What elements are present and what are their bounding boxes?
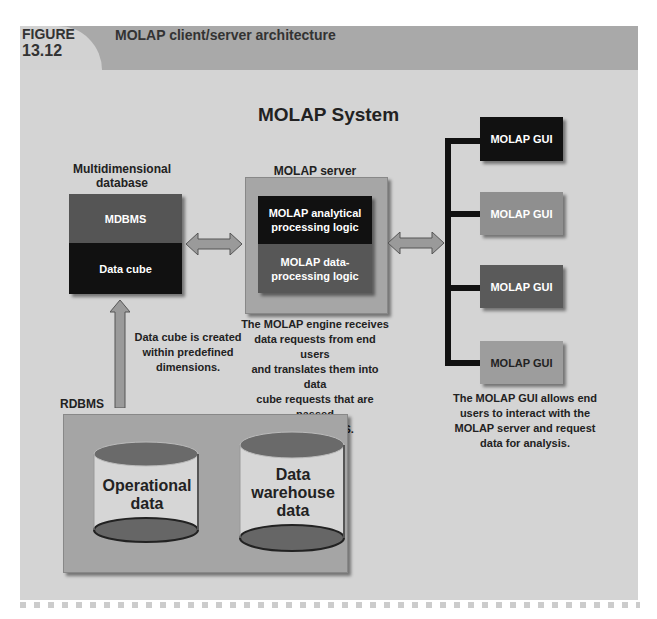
- mdbms-box: MDBMS: [69, 194, 182, 243]
- mdb-label-line2: database: [62, 176, 182, 190]
- server-caption-line: and translates them into data: [240, 362, 390, 392]
- data-cube-caption-line: Data cube is created: [133, 330, 243, 345]
- molap-gui-box-3: MOLAP GUI: [480, 265, 563, 308]
- gui-connector-1: [445, 138, 481, 144]
- molap-server-inner: MOLAP analytical processing logic MOLAP …: [258, 196, 372, 293]
- cyl2-line3: data: [238, 502, 348, 520]
- gui-connector-4: [445, 360, 481, 366]
- gui-connector-3: [445, 285, 481, 291]
- data-warehouse-label: Data warehouse data: [238, 466, 348, 520]
- data-cube-caption-line: dimensions.: [133, 360, 243, 375]
- molap-server-block: MOLAP analytical processing logic MOLAP …: [245, 177, 388, 314]
- cyl2-line1: Data: [238, 466, 348, 484]
- cyl1-line1: Operational: [92, 477, 202, 495]
- gui-caption-line: data for analysis.: [450, 436, 600, 451]
- molap-server-label: MOLAP server: [245, 164, 385, 178]
- gui-connector-2: [445, 211, 481, 217]
- rdbms-label: RDBMS: [60, 397, 104, 411]
- mdb-label-line1: Multidimensional: [62, 162, 182, 176]
- server-caption-line: data requests from end users: [240, 332, 390, 362]
- double-arrow-icon: [186, 233, 242, 255]
- molap-gui-box-1: MOLAP GUI: [480, 117, 563, 161]
- multidimensional-db-label: Multidimensional database: [62, 162, 182, 190]
- data-processing-line2: processing logic: [271, 269, 358, 283]
- data-cube-caption-line: within predefined: [133, 345, 243, 360]
- gui-caption-line: users to interact with the: [450, 406, 600, 421]
- data-cube-box: Data cube: [69, 243, 182, 294]
- gui-caption-line: The MOLAP GUI allows end: [450, 391, 600, 406]
- cyl1-line2: data: [92, 495, 202, 513]
- cyl2-line2: warehouse: [238, 484, 348, 502]
- multidimensional-db-block: MDBMS Data cube: [69, 194, 182, 294]
- cropped-body-text: [20, 602, 640, 608]
- data-processing-line1: MOLAP data-: [281, 255, 350, 269]
- data-processing-logic-box: MOLAP data- processing logic: [258, 244, 372, 293]
- data-cube-caption: Data cube is created within predefined d…: [133, 330, 243, 375]
- gui-caption-line: MOLAP server and request: [450, 421, 600, 436]
- figure-num: 13.12: [22, 42, 75, 59]
- analytical-logic-box: MOLAP analytical processing logic: [258, 196, 372, 244]
- up-arrow-icon: [110, 300, 130, 408]
- server-caption-line: The MOLAP engine receives: [240, 317, 390, 332]
- figure-word: FIGURE: [22, 27, 75, 42]
- molap-gui-box-2: MOLAP GUI: [480, 192, 563, 235]
- double-arrow-icon: [388, 232, 444, 254]
- analytical-line2: processing logic: [271, 220, 358, 234]
- analytical-line1: MOLAP analytical: [269, 206, 362, 220]
- gui-caption: The MOLAP GUI allows end users to intera…: [450, 391, 600, 451]
- figure-number: FIGURE 13.12: [22, 27, 75, 59]
- operational-data-label: Operational data: [92, 477, 202, 513]
- figure-title: MOLAP client/server architecture: [115, 27, 336, 43]
- molap-gui-box-4: MOLAP GUI: [480, 341, 563, 384]
- gui-bus-vertical: [445, 138, 451, 366]
